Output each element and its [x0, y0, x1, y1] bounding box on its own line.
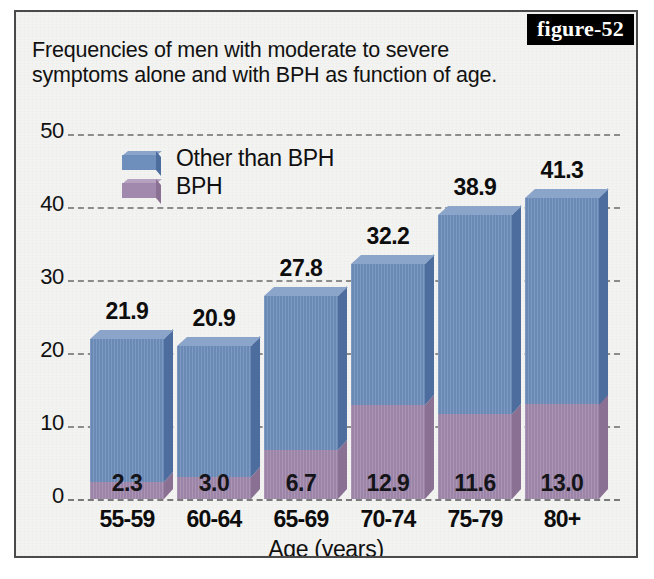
bar-stack[interactable]: [525, 198, 599, 499]
figure-number-badge: figure-52: [527, 14, 634, 45]
bar-side-face: [599, 188, 608, 405]
bar-top-face: [264, 287, 348, 296]
bar-segment-other[interactable]: [351, 264, 425, 405]
legend-item-other[interactable]: Other than BPH: [122, 145, 334, 171]
legend-swatch-bph-icon: [122, 179, 162, 194]
bar-segment-other[interactable]: [90, 339, 164, 482]
y-axis-tick-label: 10: [22, 410, 64, 436]
figure-frame: figure-52 Frequencies of men with modera…: [14, 10, 638, 558]
bar-bph-value-label: 2.3: [86, 470, 168, 497]
x-axis-category-label: 80+: [515, 506, 609, 533]
x-axis-category-label: 65-69: [254, 506, 348, 533]
bar-side-face: [164, 329, 173, 482]
bar-segment-other[interactable]: [177, 346, 251, 477]
legend-label-bph: BPH: [176, 173, 222, 200]
bar-total-label: 21.9: [84, 298, 170, 325]
bar-top-face: [525, 189, 609, 198]
title-line-1: Frequencies of men with moderate to seve…: [32, 38, 552, 63]
bar-bph-value-label: 3.0: [173, 470, 255, 497]
legend-label-other: Other than BPH: [176, 145, 334, 172]
page-title: Frequencies of men with moderate to seve…: [32, 38, 552, 88]
y-axis-tick-label: 30: [22, 264, 64, 290]
bar-texture: [438, 215, 512, 414]
bar-texture: [264, 296, 338, 450]
y-axis-tick-label: 20: [22, 337, 64, 363]
chart-legend: Other than BPH BPH: [122, 145, 334, 201]
bar-stack[interactable]: [264, 296, 338, 499]
bar-total-label: 38.9: [432, 174, 518, 201]
y-axis-tick-label: 50: [22, 118, 64, 144]
bar-top-face: [438, 206, 522, 215]
bar-top-face: [351, 255, 435, 264]
bar-side-face: [338, 286, 347, 450]
bar-stack[interactable]: [351, 264, 425, 499]
figure-root: figure-52 Frequencies of men with modera…: [0, 0, 654, 579]
bar-total-label: 32.2: [345, 223, 431, 250]
legend-item-bph[interactable]: BPH: [122, 173, 334, 199]
bar-total-label: 27.8: [258, 255, 344, 282]
title-line-2: symptoms alone and with BPH as function …: [32, 63, 552, 88]
bar-side-face: [251, 336, 260, 477]
bar-total-label: 20.9: [171, 305, 257, 332]
bar-segment-other[interactable]: [525, 198, 599, 405]
y-axis-tick-label: 0: [22, 483, 64, 509]
bar-bph-value-label: 6.7: [260, 470, 342, 497]
bar-texture: [525, 198, 599, 405]
x-axis-category-label: 75-79: [428, 506, 522, 533]
bar-segment-other[interactable]: [438, 215, 512, 414]
bar-bph-value-label: 13.0: [521, 470, 603, 497]
bar-segment-other[interactable]: [264, 296, 338, 450]
bar-top-face: [177, 337, 261, 346]
x-axis-category-label: 70-74: [341, 506, 435, 533]
chart-plot-area: 01020304050 21.92.355-5920.93.060-6427.8…: [16, 12, 636, 556]
bar-stack[interactable]: [438, 215, 512, 499]
bar-texture: [351, 264, 425, 405]
x-axis-category-label: 55-59: [80, 506, 174, 533]
bar-bph-value-label: 12.9: [347, 470, 429, 497]
x-axis-category-label: 60-64: [167, 506, 261, 533]
bar-total-label: 41.3: [519, 157, 605, 184]
bar-side-face: [512, 205, 521, 414]
bar-texture: [177, 346, 251, 477]
legend-swatch-other-icon: [122, 151, 162, 166]
bar-top-face: [90, 330, 174, 339]
bar-side-face: [425, 254, 434, 405]
bar-texture: [90, 339, 164, 482]
x-axis-title: Age (years): [16, 536, 636, 558]
bar-bph-value-label: 11.6: [434, 470, 516, 497]
y-axis-tick-label: 40: [22, 191, 64, 217]
